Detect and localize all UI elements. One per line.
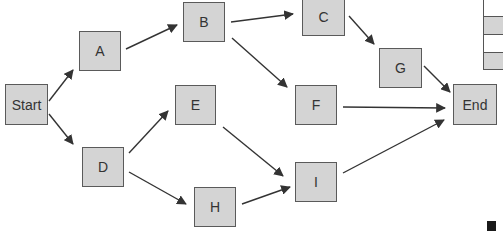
edge-f-to-end (343, 107, 445, 108)
node-start: Start (5, 84, 48, 125)
partial-side-table (483, 0, 503, 68)
node-h: H (194, 187, 236, 227)
node-a: A (79, 31, 121, 71)
side-table-row (483, 34, 503, 52)
node-label: A (95, 43, 104, 59)
side-table-row (483, 0, 503, 16)
edge-h-to-i (242, 187, 290, 204)
node-d: D (82, 147, 124, 187)
edge-b-to-c (231, 14, 293, 22)
node-label: B (199, 14, 208, 30)
corner-block (487, 221, 496, 231)
node-label: I (314, 174, 318, 190)
edge-start-to-d (49, 114, 73, 144)
edge-b-to-f (232, 38, 287, 87)
node-label: G (395, 60, 406, 76)
edge-g-to-end (424, 66, 450, 92)
side-table-row (483, 52, 503, 70)
edge-c-to-g (349, 16, 374, 44)
node-label: C (318, 9, 328, 25)
node-end: End (453, 84, 497, 125)
node-b: B (183, 2, 225, 42)
node-label: End (463, 97, 488, 113)
node-g: G (379, 48, 422, 88)
edge-d-to-h (129, 172, 186, 204)
node-f: F (295, 85, 337, 125)
node-c: C (302, 0, 345, 36)
edge-i-to-end (343, 120, 444, 173)
node-label: H (210, 199, 220, 215)
side-table-row (483, 16, 503, 34)
node-i: I (295, 162, 337, 202)
edge-d-to-e (129, 111, 168, 153)
node-label: D (98, 159, 108, 175)
node-label: E (191, 97, 200, 113)
edge-start-to-a (49, 70, 73, 101)
node-e: E (175, 85, 216, 125)
edge-e-to-i (223, 127, 283, 176)
node-label: F (312, 97, 321, 113)
edge-a-to-b (126, 25, 177, 49)
node-label: Start (12, 97, 42, 113)
